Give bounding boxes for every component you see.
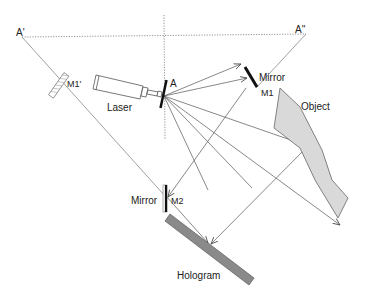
label-a-double-prime: A'' — [295, 24, 306, 35]
beam-m1-to-m2 — [168, 88, 246, 197]
line-a-prime-to-m2 — [22, 37, 165, 196]
label-laser: Laser — [107, 102, 133, 113]
dotted-vertical-line — [164, 15, 165, 140]
label-mirror-1: Mirror — [259, 72, 286, 83]
beam-a-down-2 — [164, 96, 208, 190]
label-object: Object — [301, 101, 330, 112]
label-mirror-2: Mirror — [131, 195, 158, 206]
label-m2: M2 — [171, 196, 184, 206]
label-a-prime: A' — [16, 27, 25, 38]
label-a: A — [170, 78, 177, 89]
holography-diagram: A' A'' A Laser Mirror M1 M1' Object Mirr… — [0, 0, 368, 304]
laser-lens — [157, 91, 162, 97]
laser-nozzle — [147, 90, 158, 96]
label-m1: M1 — [261, 88, 274, 98]
mirror-m2 — [163, 185, 167, 212]
label-hologram: Hologram — [177, 270, 220, 281]
laser — [93, 75, 162, 99]
laser-body — [93, 75, 143, 99]
mirror-m1 — [245, 67, 257, 87]
label-m1-prime: M1' — [67, 79, 82, 89]
beam-a-down — [164, 96, 252, 188]
